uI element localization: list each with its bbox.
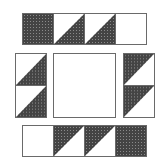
half-triangle-icon	[85, 126, 115, 156]
right-cell-2	[123, 85, 155, 118]
right-cell-1	[123, 53, 155, 86]
bottom-cell-1	[22, 125, 54, 157]
full-dark-square-icon	[116, 126, 146, 156]
half-triangle-icon	[54, 14, 84, 44]
left-cell-1	[15, 53, 47, 86]
top-row	[22, 13, 147, 45]
right-column	[123, 53, 155, 118]
half-triangle-icon	[124, 86, 154, 117]
bottom-cell-3	[84, 125, 116, 157]
top-cell-4	[115, 13, 147, 45]
bottom-cell-4	[115, 125, 147, 157]
left-column	[15, 53, 47, 118]
top-cell-1	[22, 13, 54, 45]
left-cell-2	[15, 85, 47, 118]
center-square	[53, 53, 116, 118]
bottom-cell-2	[53, 125, 85, 157]
half-triangle-icon	[54, 126, 84, 156]
full-dark-square-icon	[23, 14, 53, 44]
half-triangle-icon	[16, 86, 46, 117]
half-triangle-icon	[85, 14, 115, 44]
bottom-row	[22, 125, 147, 157]
half-triangle-icon	[16, 54, 46, 85]
top-cell-3	[84, 13, 116, 45]
top-cell-2	[53, 13, 85, 45]
half-triangle-icon	[124, 54, 154, 85]
